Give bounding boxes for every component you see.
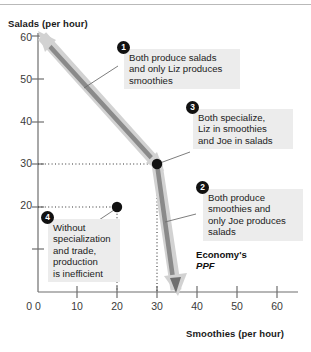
callout-4-line-4: production bbox=[53, 256, 116, 267]
callout-1-line-1: Both produce salads bbox=[129, 52, 236, 63]
callout-4-line-5: is inefficient bbox=[53, 268, 116, 279]
callout-badge-2: 2 bbox=[196, 181, 209, 194]
callout-3-line-1: Both specialize, bbox=[198, 112, 289, 123]
callout-2-line-4: salads bbox=[208, 226, 299, 237]
ppf-label-line-1: Economy's bbox=[196, 249, 247, 260]
ppf-series-label: Economy's PPF bbox=[196, 249, 247, 271]
callout-2-line-1: Both produce bbox=[208, 192, 299, 203]
callout-3-line-2: Liz in smoothies bbox=[198, 123, 289, 134]
callout-badge-3: 3 bbox=[186, 101, 199, 114]
data-point-3[interactable] bbox=[152, 159, 162, 169]
callout-badge-1: 1 bbox=[117, 41, 130, 54]
callout-box-1: Both produce salads and only Liz produce… bbox=[124, 49, 240, 89]
ppf-figure: Salads (per hour) Smoothies (per hour) 6… bbox=[0, 0, 311, 352]
leader-line-1 bbox=[84, 66, 118, 88]
callout-4-line-2: specialization bbox=[53, 233, 116, 244]
callout-4-line-1: Without bbox=[53, 222, 116, 233]
callout-box-3: Both specialize, Liz in smoothies and Jo… bbox=[193, 109, 293, 149]
callout-badge-4: 4 bbox=[41, 211, 54, 224]
callout-2-line-3: only Joe produces bbox=[208, 215, 299, 226]
ppf-label-line-2: PPF bbox=[196, 260, 247, 271]
callout-3-line-3: and Joe in salads bbox=[198, 135, 289, 146]
callout-1-line-3: smoothies bbox=[129, 75, 236, 86]
data-point-4[interactable] bbox=[112, 202, 122, 212]
leader-line-3 bbox=[160, 152, 190, 163]
callout-box-2: Both produce smoothies and only Joe prod… bbox=[203, 189, 303, 241]
callout-2-line-2: smoothies and bbox=[208, 203, 299, 214]
callout-box-4: Without specialization and trade, produc… bbox=[48, 219, 120, 282]
callout-1-line-2: and only Liz produces bbox=[129, 63, 236, 74]
callout-4-line-3: and trade, bbox=[53, 245, 116, 256]
